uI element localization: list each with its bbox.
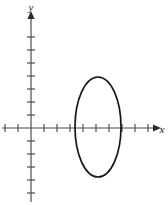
x-axis-label: x [159, 123, 165, 135]
graph-figure: y x [0, 0, 168, 205]
ellipse-curve [75, 77, 121, 177]
coordinate-plane-svg: y x [0, 0, 168, 205]
y-axis-label: y [28, 1, 34, 13]
